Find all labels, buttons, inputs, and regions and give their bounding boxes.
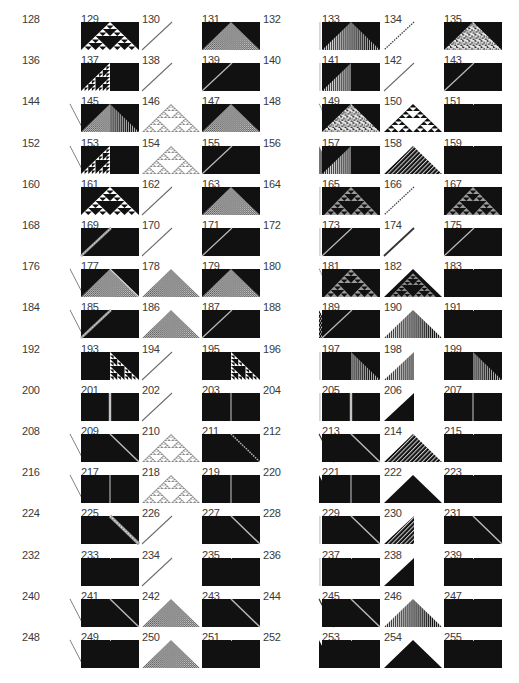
rule-cell-253: 253 (322, 632, 382, 672)
rule-cell-200: 200 (22, 385, 82, 425)
rule-cell-182: 182 (384, 261, 444, 301)
rule-number-label: 160 (22, 179, 40, 190)
rule-cell-248: 248 (22, 632, 82, 672)
rule-pattern-box-tri-fine-icon (202, 22, 260, 50)
rule-cell-239: 239 (444, 550, 504, 590)
rule-cell-230: 230 (384, 508, 444, 548)
rule-pattern-box-diag-r-icon (202, 146, 260, 174)
rule-pattern-box-sierpinski-icon (81, 187, 139, 215)
rule-cell-190: 190 (384, 302, 444, 342)
rule-cell-196: 196 (263, 344, 323, 384)
rule-pattern-tri-gray-icon (142, 310, 200, 338)
rule-cell-176: 176 (22, 261, 82, 301)
rule-pattern-box-plain-icon (202, 558, 260, 586)
rule-pattern-box-tri-chaos-icon (322, 104, 380, 132)
rule-cell-141: 141 (322, 55, 382, 95)
rule-cell-207: 207 (444, 385, 504, 425)
rule-cell-131: 131 (202, 14, 262, 54)
rule-number-label: 180 (263, 261, 281, 272)
rule-cell-201: 201 (81, 385, 141, 425)
rule-cell-168: 168 (22, 220, 82, 260)
rule-cell-139: 139 (202, 55, 262, 95)
rule-cell-166: 166 (384, 179, 444, 219)
rule-number-label: 220 (263, 467, 281, 478)
rule-cell-184: 184 (22, 302, 82, 342)
rule-cell-177: 177 (81, 261, 141, 301)
rule-cell-140: 140 (263, 55, 323, 95)
rule-cell-243: 243 (202, 591, 262, 631)
rule-cell-232: 232 (22, 550, 82, 590)
rule-number-label: 148 (263, 96, 281, 107)
rule-number-label: 240 (22, 591, 40, 602)
rule-pattern-box-plain-icon (444, 310, 502, 338)
rule-pattern-diag-r-dotted-icon (384, 22, 442, 50)
rule-number-label: 192 (22, 344, 40, 355)
rule-cell-159: 159 (444, 138, 504, 178)
rule-pattern-box-sierpinski-gray-icon (322, 269, 380, 297)
rule-number-label: 152 (22, 138, 40, 149)
rule-cell-144: 144 (22, 96, 82, 136)
rule-number-label: 252 (263, 632, 281, 643)
rule-pattern-box-tri-gray-icon (202, 187, 260, 215)
rule-cell-157: 157 (322, 138, 382, 178)
rule-pattern-tri-r-black-icon (384, 558, 442, 586)
rule-cell-130: 130 (142, 14, 202, 54)
rule-pattern-box-right-stripes-icon (322, 352, 380, 380)
rule-pattern-tri-sierpinski-dense-icon (384, 104, 442, 132)
rule-pattern-box-diag-r-icon (322, 228, 380, 256)
rule-number-label: 140 (263, 55, 281, 66)
rule-cell-226: 226 (142, 508, 202, 548)
rule-pattern-diag-r-icon (142, 558, 200, 586)
rule-pattern-box-diag-r-icon (202, 228, 260, 256)
rule-pattern-diag-r-icon (142, 393, 200, 421)
rule-cell-208: 208 (22, 426, 82, 466)
rule-number-label: 228 (263, 508, 281, 519)
rule-cell-158: 158 (384, 138, 444, 178)
rule-cell-234: 234 (142, 550, 202, 590)
rule-pattern-box-left-sierpinski-icon (81, 63, 139, 91)
rule-cell-136: 136 (22, 55, 82, 95)
rule-cell-150: 150 (384, 96, 444, 136)
rule-cell-250: 250 (142, 632, 202, 672)
rule-cell-143: 143 (444, 55, 504, 95)
rule-pattern-box-vline-icon (202, 393, 260, 421)
rule-number-label: 172 (263, 220, 281, 231)
rule-cell-227: 227 (202, 508, 262, 548)
rule-cell-218: 218 (142, 467, 202, 507)
rule-number-label: 248 (22, 632, 40, 643)
rule-cell-213: 213 (322, 426, 382, 466)
rule-pattern-box-plain-icon (444, 640, 502, 668)
rule-cell-210: 210 (142, 426, 202, 466)
rule-pattern-box-plain-icon (81, 640, 139, 668)
rule-number-label: 232 (22, 550, 40, 561)
rule-pattern-box-right-sierpinski-icon (81, 352, 139, 380)
rule-cell-160: 160 (22, 179, 82, 219)
rule-number-label: 236 (263, 550, 281, 561)
rule-cell-246: 246 (384, 591, 444, 631)
rule-cell-228: 228 (263, 508, 323, 548)
rule-cell-198: 198 (384, 344, 444, 384)
rule-pattern-box-diag-l-icon (202, 516, 260, 544)
rule-pattern-box-vline-icon (81, 475, 139, 503)
rule-pattern-box-diag-r-icon (322, 310, 380, 338)
rule-cell-142: 142 (384, 55, 444, 95)
rule-cell-133: 133 (322, 14, 382, 54)
rule-pattern-box-tri-mixed-icon (81, 104, 139, 132)
rule-cell-222: 222 (384, 467, 444, 507)
rule-cell-214: 214 (384, 426, 444, 466)
rule-pattern-box-right-stripes-icon (444, 352, 502, 380)
rule-pattern-box-left-stripes-icon (322, 63, 380, 91)
rule-cell-235: 235 (202, 550, 262, 590)
rule-pattern-tri-black-icon (384, 640, 442, 668)
rule-cell-163: 163 (202, 179, 262, 219)
rule-cell-129: 129 (81, 14, 141, 54)
rule-pattern-box-diag-l-icon (322, 434, 380, 462)
rule-cell-188: 188 (263, 302, 323, 342)
rule-pattern-box-left-sierpinski-icon (81, 146, 139, 174)
rule-pattern-diag-r-icon (384, 63, 442, 91)
rule-pattern-box-diag-r-wide-icon (81, 310, 139, 338)
rule-cell-147: 147 (202, 96, 262, 136)
rule-cell-167: 167 (444, 179, 504, 219)
rule-cell-179: 179 (202, 261, 262, 301)
rule-cell-171: 171 (202, 220, 262, 260)
